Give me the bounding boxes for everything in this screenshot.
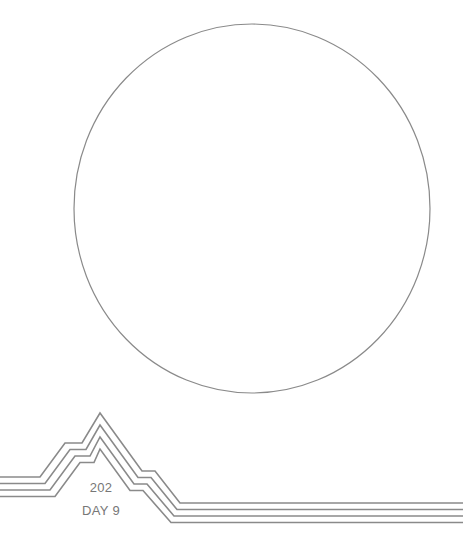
caption-number: 202 [71,481,131,495]
artwork-svg [0,0,463,558]
sun-circle [74,24,430,393]
artwork-canvas [0,0,463,558]
mountain-line-1 [0,413,463,503]
caption-day: DAY 9 [71,504,131,518]
mountain-line-4 [0,449,463,523]
mountain-lines [0,413,463,523]
mountain-line-2 [0,425,463,510]
